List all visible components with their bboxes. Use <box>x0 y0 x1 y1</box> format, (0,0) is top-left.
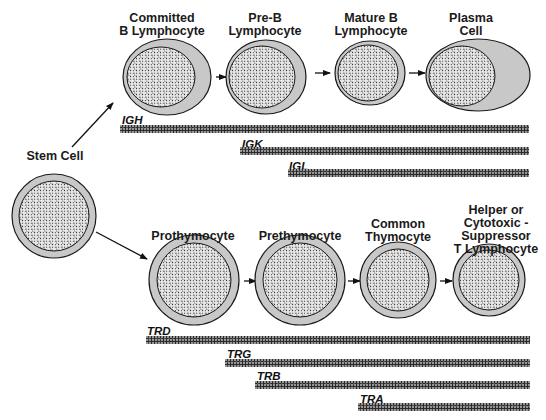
cell-pre-b-lymphocyte <box>226 40 306 114</box>
arrow-to-t-lineage <box>96 232 147 259</box>
label-stem-cell: Stem Cell <box>16 150 94 163</box>
gene-bar-igl <box>288 169 529 177</box>
cell-prethymocyte <box>255 235 345 325</box>
label-plasma-cell: Plasma Cell <box>436 12 506 38</box>
cell-common-thymocyte <box>360 242 436 318</box>
label-common-thymocyte: Common Thymocyte <box>358 218 438 244</box>
cell-mature-b-lymphocyte <box>335 41 405 105</box>
label-committed-b-lymphocyte: Committed B Lymphocyte <box>112 12 212 38</box>
cell-prothymocyte <box>149 235 239 325</box>
label-pre-b-lymphocyte: Pre-B Lymphocyte <box>220 12 310 38</box>
lymphocyte-differentiation-diagram: Stem Cell Committed B Lymphocyte Pre-B L… <box>0 0 546 420</box>
gene-bar-igk <box>240 147 529 155</box>
cell-plasma-cell <box>426 39 530 111</box>
label-prethymocyte: Prethymocyte <box>250 230 350 243</box>
arrow-to-b-lineage <box>72 103 113 147</box>
stem-cell <box>12 174 96 258</box>
gene-bar-trb <box>255 381 530 389</box>
label-mature-b-lymphocyte: Mature B Lymphocyte <box>326 12 416 38</box>
cell-committed-b-lymphocyte <box>123 39 211 115</box>
gene-bar-igh <box>120 125 529 133</box>
gene-bar-tra <box>358 403 530 411</box>
label-t-lymphocyte: Helper or Cytotoxic - Suppressor T Lymph… <box>446 204 546 256</box>
gene-bar-trg <box>225 359 530 367</box>
gene-bar-trd <box>146 336 530 344</box>
label-prothymocyte: Prothymocyte <box>143 230 243 243</box>
